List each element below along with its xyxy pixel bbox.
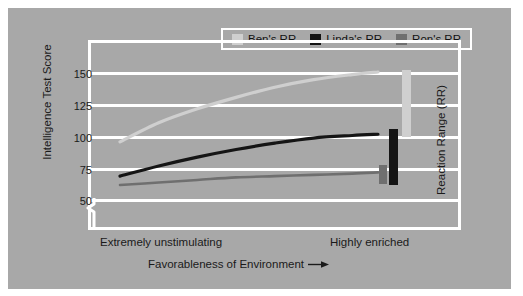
y-axis-title: Intelligence Test Score (41, 22, 53, 182)
chart-panel: Ben's RR Linda's RR Ron's RR 150 125 100… (8, 8, 511, 289)
y-tick-labels: 150 125 100 75 50 (58, 8, 92, 296)
rr-bar-ben (402, 70, 411, 137)
y-tick-150: 150 (62, 69, 92, 80)
y-tick-75: 75 (62, 165, 92, 176)
x-axis-title: Favorableness of Environment (148, 258, 304, 270)
y-tick-125: 125 (62, 101, 92, 112)
reaction-range-axis-title: Reaction Range (RR) (435, 65, 447, 215)
x-label-left: Extremely unstimulating (100, 236, 222, 248)
x-label-right: Highly enriched (330, 236, 409, 248)
x-axis-title-wrap: Favorableness of Environment (148, 258, 330, 271)
y-axis-break-icon (80, 198, 104, 228)
gridline-50 (88, 199, 461, 202)
gridline-75 (88, 168, 461, 171)
rr-bar-ron (379, 165, 387, 184)
rr-bar-linda (389, 129, 398, 185)
chart-figure: Ben's RR Linda's RR Ron's RR 150 125 100… (0, 0, 523, 296)
y-tick-100: 100 (62, 133, 92, 144)
right-arrow-icon (308, 259, 330, 271)
